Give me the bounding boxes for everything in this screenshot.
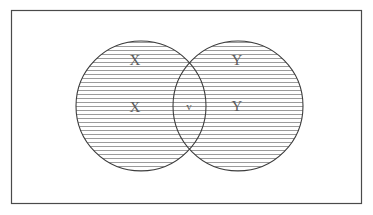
label-y-top: Y [232,52,243,68]
label-v-intersection: v [186,100,192,112]
venn-diagram-figure: X X v Y Y [0,0,373,215]
label-x-bottom: X [130,99,141,115]
label-y-bottom: Y [232,98,243,114]
venn-diagram-svg: X X v Y Y [0,0,373,215]
label-x-top: X [130,52,141,68]
